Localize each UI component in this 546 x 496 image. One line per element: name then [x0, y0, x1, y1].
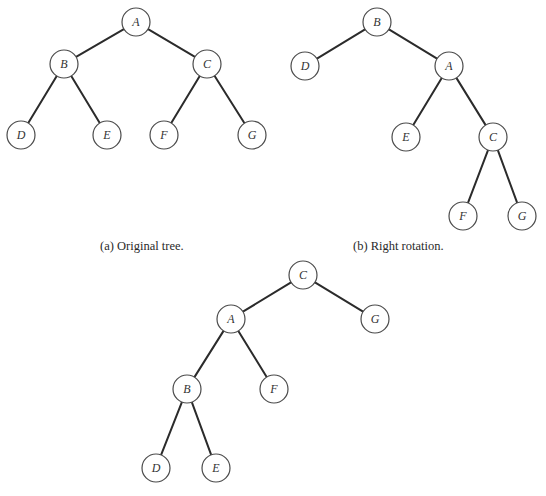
node-label: E [102, 128, 111, 142]
node-label: A [131, 15, 140, 29]
node-label: B [373, 15, 381, 29]
tree-a-original: ABCDEFG [7, 8, 266, 149]
edge-b-d [28, 76, 56, 123]
edge-c-f [468, 150, 488, 203]
caption-right-rotation: (b) Right rotation. [353, 240, 444, 253]
caption-original-tree: (a) Original tree. [100, 240, 184, 253]
node-label: F [458, 209, 467, 223]
node-label: B [60, 57, 68, 71]
edge-a-e [413, 78, 441, 125]
tree-node-e: E [202, 454, 230, 482]
tree-node-e: E [93, 121, 121, 149]
tree-node-c: C [479, 123, 507, 151]
tree-node-b: B [363, 8, 391, 36]
tree-node-f: F [449, 202, 477, 230]
tree-node-b: B [50, 50, 78, 78]
node-label: D [16, 128, 26, 142]
tree-node-a: A [435, 52, 463, 80]
tree-b-right-rotation: BDAECFG [291, 8, 536, 230]
tree-node-d: D [142, 454, 170, 482]
tree-node-a: A [122, 8, 150, 36]
edge-a-f [238, 331, 266, 377]
edge-c-g [498, 150, 517, 203]
node-label: C [203, 57, 212, 71]
node-label: G [371, 312, 380, 326]
edge-c-g [214, 76, 244, 123]
node-label: G [248, 128, 257, 142]
tree-c-rotated: CAGBFDE [142, 261, 389, 482]
tree-node-g: G [361, 305, 389, 333]
edge-a-b [76, 29, 124, 57]
node-label: D [151, 461, 161, 475]
edge-b-e [192, 402, 211, 455]
binary-tree-rotation-figure: ABCDEFG BDAECFG CAGBFDE [0, 0, 546, 496]
tree-node-c: C [193, 50, 221, 78]
tree-node-f: F [150, 121, 178, 149]
tree-node-d: D [7, 121, 35, 149]
edge-b-e [71, 76, 99, 123]
node-label: F [159, 128, 168, 142]
edge-c-f [171, 76, 199, 123]
node-label: A [444, 59, 453, 73]
edge-b-d [161, 402, 182, 455]
tree-node-d: D [291, 52, 319, 80]
node-label: E [401, 130, 410, 144]
tree-node-c: C [289, 261, 317, 289]
tree-node-f: F [260, 375, 288, 403]
tree-node-b: B [173, 375, 201, 403]
node-label: C [489, 130, 498, 144]
edge-b-a [389, 29, 437, 58]
node-label: E [211, 461, 220, 475]
edge-a-c [456, 78, 485, 125]
node-label: F [269, 382, 278, 396]
tree-node-e: E [392, 123, 420, 151]
edge-c-a [243, 282, 291, 311]
edge-a-b [194, 331, 223, 377]
node-label: D [300, 59, 310, 73]
edge-a-c [148, 29, 195, 57]
node-label: G [518, 209, 527, 223]
tree-node-g: G [508, 202, 536, 230]
edge-c-g [315, 282, 363, 311]
edge-b-d [317, 29, 365, 58]
node-label: A [226, 312, 235, 326]
tree-node-g: G [238, 121, 266, 149]
node-label: C [299, 268, 308, 282]
node-label: B [183, 382, 191, 396]
tree-node-a: A [217, 305, 245, 333]
